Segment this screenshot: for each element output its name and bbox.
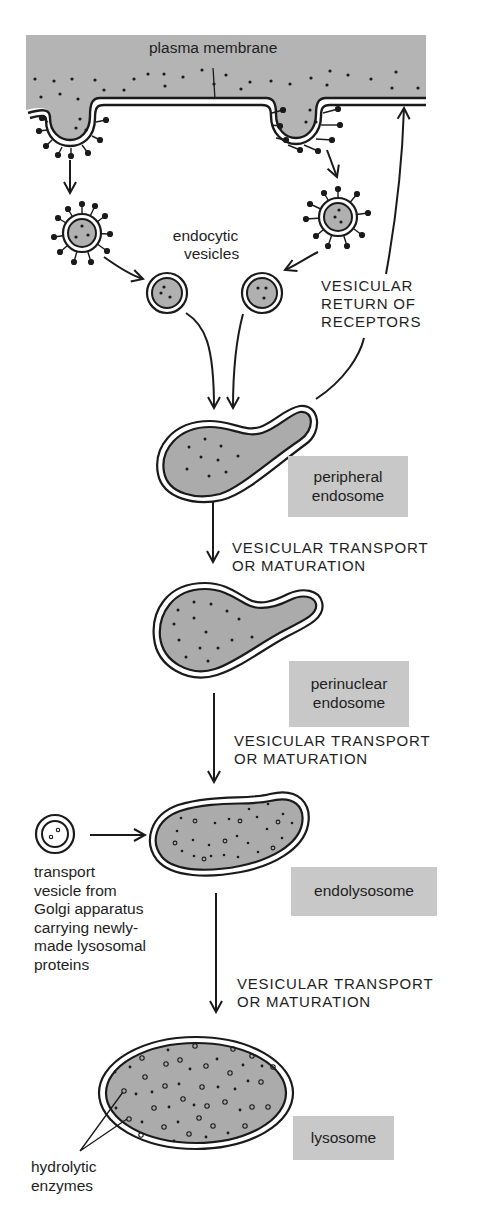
endocytic-vesicles-label: endocytic vesicles — [172, 227, 239, 264]
endolysosome — [150, 792, 309, 875]
arrow-pit-right — [327, 150, 337, 177]
golgi-transport-vesicle — [36, 815, 74, 853]
transport-label-1: VESICULAR TRANSPORT OR MATURATION — [232, 539, 428, 575]
arrow-to-peripheral-left — [186, 313, 214, 408]
peripheral-endosome-label-box: peripheral endosome — [288, 456, 408, 517]
perinuclear-endosome-label-box: perinuclear endosome — [289, 661, 409, 727]
endocytosis-diagram — [0, 0, 480, 1211]
transport-label-2: VESICULAR TRANSPORT OR MATURATION — [234, 732, 430, 768]
arrow-return-upper — [386, 108, 404, 274]
transport-label-3: VESICULAR TRANSPORT OR MATURATION — [237, 975, 433, 1011]
endocytic-vesicle-left — [147, 273, 187, 313]
lysosome-label-box: lysosome — [293, 1116, 394, 1160]
arrow-to-peripheral-right — [233, 314, 243, 408]
arrow-return-lower — [316, 338, 364, 399]
coated-vesicle-left — [52, 202, 113, 265]
lysosome — [80, 1037, 293, 1151]
arrow-uncoat-left — [104, 257, 143, 279]
endolysosome-label-box: endolysosome — [291, 867, 437, 916]
golgi-vesicle-label: transport vesicle from Golgi apparatus c… — [34, 863, 146, 975]
vesicular-return-label: VESICULAR RETURN OF RECEPTORS — [321, 277, 421, 331]
arrow-uncoat-right — [285, 252, 318, 270]
endocytic-vesicle-right — [242, 273, 282, 313]
coated-vesicle-right — [304, 187, 371, 249]
plasma-membrane-label: plasma membrane — [149, 39, 277, 57]
hydrolytic-enzymes-label: hydrolytic enzymes — [31, 1157, 96, 1196]
